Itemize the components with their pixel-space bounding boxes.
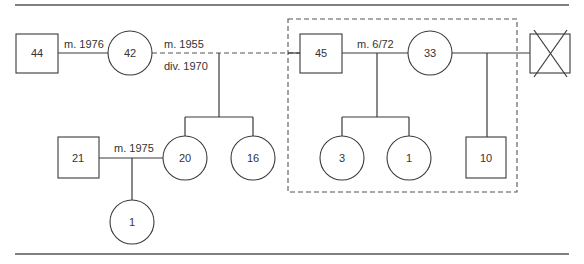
svg-text:16: 16 — [247, 152, 259, 164]
svg-text:1: 1 — [406, 152, 412, 164]
svg-text:1: 1 — [129, 216, 135, 228]
marriage-label: m. 1975 — [114, 142, 154, 154]
male-node-10: 10 — [466, 137, 506, 178]
svg-text:45: 45 — [315, 47, 327, 59]
male-node-44: 44 — [16, 34, 58, 73]
svg-text:21: 21 — [72, 152, 84, 164]
marriage-label: m. 1976 — [64, 38, 104, 50]
male-node-21: 21 — [58, 137, 99, 178]
svg-text:3: 3 — [339, 152, 345, 164]
female-node-16: 16 — [231, 136, 275, 180]
female-node-1: 1 — [387, 136, 431, 180]
female-node-3: 3 — [320, 136, 364, 180]
deceased-male-node — [530, 30, 570, 77]
svg-text:10: 10 — [480, 152, 492, 164]
svg-text:33: 33 — [424, 47, 436, 59]
female-node-20: 20 — [163, 136, 207, 180]
svg-text:20: 20 — [179, 152, 191, 164]
svg-text:42: 42 — [124, 47, 136, 59]
female-node-1-grandchild: 1 — [110, 200, 154, 244]
male-node-45: 45 — [300, 34, 342, 73]
marriage-label: m. 6/72 — [357, 38, 394, 50]
marriage-label: m. 1955 — [164, 38, 204, 50]
genogram-diagram: 44 42 45 33 21 20 16 3 1 10 — [0, 0, 584, 264]
female-node-42: 42 — [108, 31, 152, 75]
female-node-33: 33 — [408, 31, 452, 75]
divorce-label: div. 1970 — [164, 60, 208, 72]
svg-text:44: 44 — [31, 47, 43, 59]
